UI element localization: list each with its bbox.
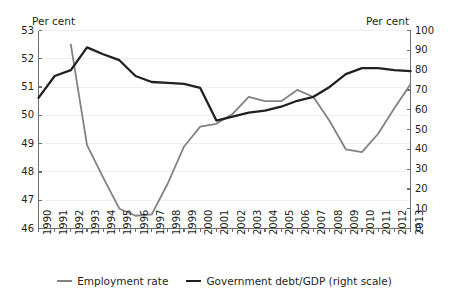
- y-tick-label-left: 48: [10, 167, 34, 177]
- plot-area: [0, 0, 449, 295]
- y-tick-label-right: 90: [415, 45, 445, 55]
- x-tick-label: 1999: [188, 209, 198, 234]
- y-tick-label-right: 100: [415, 26, 445, 36]
- x-tick-label: 1990: [43, 209, 53, 234]
- x-tick-label: 1991: [59, 209, 69, 234]
- y-tick-label-right: 20: [415, 184, 445, 194]
- chart-legend: Employment rateGovernment debt/GDP (righ…: [0, 275, 449, 287]
- gridlines: [39, 31, 411, 201]
- x-tick-label: 1993: [91, 209, 101, 234]
- data-series-layer: [39, 45, 411, 216]
- y-tick-label-right: 30: [415, 164, 445, 174]
- y-tick-label-right: 70: [415, 85, 445, 95]
- chart-figure: Per cent Per cent 4647484950515253 01020…: [0, 0, 449, 295]
- y-tick-label-left: 50: [10, 110, 34, 120]
- x-tick-label: 1996: [140, 209, 150, 234]
- x-tick-label: 2010: [366, 209, 376, 234]
- x-tick-label: 2012: [398, 209, 408, 234]
- y-tick-label-right: 40: [415, 144, 445, 154]
- legend-item-1[interactable]: Government debt/GDP (right scale): [186, 275, 391, 287]
- legend-label: Government debt/GDP (right scale): [206, 275, 391, 287]
- y-tick-label-left: 53: [10, 26, 34, 36]
- x-tick-label: 2000: [204, 209, 214, 234]
- y-tick-label-left: 51: [10, 82, 34, 92]
- x-tick-label: 2008: [334, 209, 344, 234]
- legend-line-swatch: [186, 280, 201, 282]
- x-tick-label: 1997: [156, 209, 166, 234]
- axis-lines: [39, 31, 411, 229]
- y-tick-label-left: 49: [10, 139, 34, 149]
- series-line-0: [71, 45, 411, 216]
- x-tick-label: 2001: [220, 209, 230, 234]
- y-tick-label-right: 60: [415, 105, 445, 115]
- x-tick-label: 2003: [253, 209, 263, 234]
- legend-line-swatch: [57, 280, 72, 282]
- x-tick-label: 1992: [75, 209, 85, 234]
- legend-label: Employment rate: [77, 275, 168, 287]
- x-tick-label: 2011: [382, 209, 392, 234]
- x-tick-label: 1994: [107, 209, 117, 234]
- x-tick-label: 2006: [301, 209, 311, 234]
- x-tick-label: 1998: [172, 209, 182, 234]
- y-tick-label-right: 80: [415, 65, 445, 75]
- x-tick-label: 2009: [350, 209, 360, 234]
- x-tick-label: 2002: [237, 209, 247, 234]
- x-tick-label: 1995: [123, 209, 133, 234]
- x-tick-label: 2013: [415, 209, 425, 234]
- y-tick-label-left: 46: [10, 224, 34, 234]
- legend-item-0[interactable]: Employment rate: [57, 275, 168, 287]
- x-tick-label: 2004: [269, 209, 279, 234]
- y-tick-label-left: 47: [10, 195, 34, 205]
- y-tick-label-left: 52: [10, 54, 34, 64]
- x-tick-label: 2007: [317, 209, 327, 234]
- y-tick-label-right: 50: [415, 125, 445, 135]
- x-tick-label: 2005: [285, 209, 295, 234]
- axis-ticks: [39, 31, 411, 233]
